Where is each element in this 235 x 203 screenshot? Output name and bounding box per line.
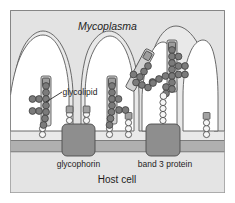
band3-protein	[146, 124, 180, 156]
mycoplasma-label: Mycoplasma	[78, 20, 137, 32]
glycophorin-body	[62, 124, 95, 156]
band3-label: band 3 protein	[138, 159, 193, 169]
band3-body	[146, 124, 180, 156]
glycan-cap-2	[83, 106, 90, 113]
mycoplasma-adhesion-diagram: Mycoplasma glycolipid glycophorin band 3…	[0, 0, 235, 203]
host-glycan-5	[125, 113, 132, 138]
glycophorin-label: glycophorin	[57, 159, 101, 169]
host-glycan-2	[83, 106, 90, 124]
host-cytoplasm	[11, 152, 225, 193]
figure-root: Mycoplasma glycolipid glycophorin band 3…	[0, 0, 235, 203]
host-glycan-7	[203, 113, 210, 138]
glycophorin-protein	[62, 124, 95, 156]
membrane-bilayer-band	[11, 140, 225, 152]
glycan-cap-1	[66, 106, 73, 113]
host-glycan-1	[66, 106, 73, 124]
host-cell-label: Host cell	[98, 174, 136, 185]
glycolipid-label: glycolipid	[63, 87, 98, 97]
glycan-cap-7	[203, 113, 210, 120]
